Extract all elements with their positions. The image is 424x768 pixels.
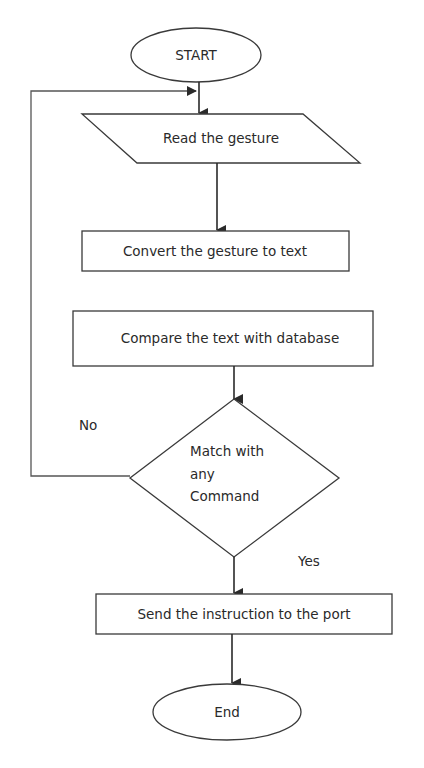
start-node: START: [131, 28, 261, 82]
compare-label: Compare the text with database: [121, 330, 339, 346]
send-label: Send the instruction to the port: [137, 606, 350, 622]
decision-label-line1: Match with: [190, 443, 264, 459]
flowchart: START Read the gesture Convert the gestu…: [0, 0, 424, 768]
convert-label: Convert the gesture to text: [123, 243, 307, 259]
convert-node: Convert the gesture to text: [82, 231, 349, 271]
read-gesture-node: Read the gesture: [82, 114, 360, 163]
send-node: Send the instruction to the port: [96, 594, 392, 634]
no-label: No: [79, 417, 97, 433]
decision-label-line2: any: [190, 466, 215, 482]
decision-label-line3: Command: [190, 488, 259, 504]
start-label: START: [175, 47, 217, 63]
end-label: End: [214, 704, 240, 720]
end-node: End: [153, 684, 301, 740]
yes-label: Yes: [297, 553, 320, 569]
compare-node: Compare the text with database: [73, 311, 373, 366]
read-gesture-label: Read the gesture: [163, 130, 279, 146]
decision-node: Match with any Command: [130, 399, 339, 557]
